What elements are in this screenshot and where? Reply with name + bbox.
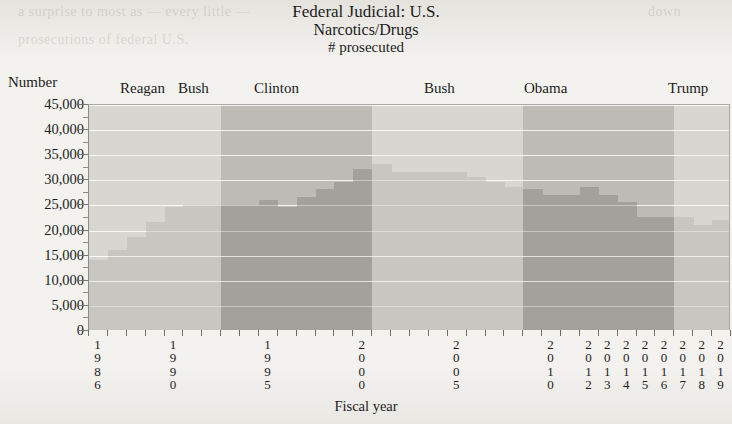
- x-tick-label-digit: 2: [619, 338, 633, 351]
- x-tick-label-digit: 8: [90, 365, 104, 378]
- gridline-overlay-5000: [89, 306, 729, 307]
- x-tick-28: [617, 330, 618, 336]
- x-tick-label-digit: 2: [695, 338, 709, 351]
- y-tick-0: [78, 330, 88, 331]
- x-tick-label-digit: 2: [638, 338, 652, 351]
- x-tick-label-digit: 0: [449, 365, 463, 378]
- bar-1991[interactable]: [183, 205, 202, 330]
- bar-1988[interactable]: [127, 237, 146, 330]
- bar-2010[interactable]: [542, 195, 561, 330]
- bar-2011[interactable]: [561, 195, 580, 330]
- gridline-overlay-35000: [89, 155, 729, 156]
- bar-1996[interactable]: [278, 207, 297, 330]
- bar-2008[interactable]: [504, 187, 523, 330]
- x-tick-label-digit: 1: [260, 338, 274, 351]
- administration-label-obama-4: Obama: [524, 80, 567, 97]
- administration-label-bush-3: Bush: [424, 80, 455, 97]
- administration-label-trump-5: Trump: [668, 80, 708, 97]
- x-tick-label-2000: 2000: [355, 338, 369, 392]
- y-tick-20000: [78, 230, 88, 231]
- bar-2013[interactable]: [599, 195, 618, 330]
- x-tick-label-digit: 6: [90, 378, 104, 391]
- x-tick-label-digit: 0: [581, 351, 595, 364]
- x-tick-25: [560, 330, 561, 336]
- x-tick-label-2005: 2005: [449, 338, 463, 392]
- x-tick-label-digit: 0: [695, 351, 709, 364]
- x-tick-label-1995: 1995: [260, 338, 274, 392]
- x-tick-label-digit: 9: [260, 365, 274, 378]
- y-tick-40000: [78, 129, 88, 130]
- x-tick-29: [636, 330, 637, 336]
- x-tick-label-digit: 9: [166, 351, 180, 364]
- x-tick-label-2012: 2012: [581, 338, 595, 392]
- bar-2014[interactable]: [618, 202, 637, 330]
- x-tick-0: [88, 330, 89, 336]
- x-tick-label-digit: 1: [676, 365, 690, 378]
- x-tick-label-digit: 0: [657, 351, 671, 364]
- bar-2017[interactable]: [674, 217, 693, 330]
- x-tick-label-digit: 1: [600, 365, 614, 378]
- bar-1995[interactable]: [259, 200, 278, 330]
- bar-1989[interactable]: [146, 222, 165, 330]
- x-tick-label-digit: 2: [676, 338, 690, 351]
- x-tick-label-digit: 5: [260, 378, 274, 391]
- bar-1987[interactable]: [108, 250, 127, 330]
- bar-2019[interactable]: [712, 220, 730, 330]
- chart-title-line1: Federal Judicial: U.S.: [0, 2, 732, 21]
- y-tick-30000: [78, 179, 88, 180]
- x-tick-label-digit: 1: [714, 365, 728, 378]
- x-tick-7: [220, 330, 221, 336]
- x-tick-label-digit: 0: [600, 351, 614, 364]
- x-tick-15: [371, 330, 372, 336]
- chart-title-line2: Narcotics/Drugs: [0, 21, 732, 39]
- x-tick-label-digit: 4: [619, 378, 633, 391]
- bar-2016[interactable]: [655, 217, 674, 330]
- bar-1993[interactable]: [221, 205, 240, 330]
- bar-2018[interactable]: [693, 225, 712, 330]
- x-tick-label-digit: 0: [619, 351, 633, 364]
- y-tick-35000: [78, 154, 88, 155]
- x-tick-label-digit: 1: [581, 365, 595, 378]
- x-tick-30: [654, 330, 655, 336]
- x-tick-label-1986: 1986: [90, 338, 104, 392]
- x-tick-31: [673, 330, 674, 336]
- chart-title-block: Federal Judicial: U.S. Narcotics/Drugs #…: [0, 2, 732, 56]
- x-tick-21: [485, 330, 486, 336]
- administration-label-reagan-0: Reagan: [120, 80, 165, 97]
- bar-2015[interactable]: [637, 217, 656, 330]
- bar-2006[interactable]: [467, 177, 486, 330]
- bar-1998[interactable]: [316, 189, 335, 330]
- gridline-overlay-20000: [89, 231, 729, 232]
- x-tick-label-digit: 0: [166, 378, 180, 391]
- x-tick-34: [730, 330, 731, 336]
- bar-1986[interactable]: [89, 260, 108, 330]
- x-tick-label-1990: 1990: [166, 338, 180, 392]
- x-tick-label-digit: 0: [355, 351, 369, 364]
- y-tick-25000: [78, 204, 88, 205]
- x-tick-16: [390, 330, 391, 336]
- x-tick-label-digit: 1: [657, 365, 671, 378]
- x-tick-3: [145, 330, 146, 336]
- bar-2009[interactable]: [523, 189, 542, 330]
- x-tick-label-digit: 1: [90, 338, 104, 351]
- bar-1992[interactable]: [202, 205, 221, 330]
- x-tick-23: [522, 330, 523, 336]
- x-tick-5: [182, 330, 183, 336]
- x-tick-label-digit: 0: [449, 351, 463, 364]
- bar-1994[interactable]: [240, 205, 259, 330]
- x-tick-label-digit: 6: [657, 378, 671, 391]
- bar-1997[interactable]: [297, 197, 316, 330]
- x-tick-label-2019: 2019: [714, 338, 728, 392]
- gridline-overlay-45000: [89, 105, 729, 106]
- x-tick-14: [352, 330, 353, 336]
- x-tick-label-digit: 1: [166, 338, 180, 351]
- x-tick-label-digit: 0: [544, 378, 558, 391]
- bar-1990[interactable]: [165, 207, 184, 330]
- bar-2012[interactable]: [580, 187, 599, 330]
- x-tick-label-digit: 2: [355, 338, 369, 351]
- x-axis-title: Fiscal year: [0, 398, 732, 415]
- x-tick-1: [107, 330, 108, 336]
- x-tick-label-2017: 2017: [676, 338, 690, 392]
- x-tick-label-digit: 1: [695, 365, 709, 378]
- gridline-overlay-30000: [89, 180, 729, 181]
